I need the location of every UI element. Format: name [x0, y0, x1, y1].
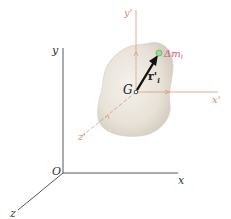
origin-label: O: [52, 165, 61, 178]
fixed-y-label: y: [51, 44, 59, 57]
fixed-x-label: x: [178, 174, 185, 187]
center-of-mass-point: [134, 90, 138, 94]
rigid-body-shape: [98, 43, 173, 137]
body-z-label: z': [77, 131, 86, 142]
rigid-body-diagram: O y x z y' x' z' G r'i Δmi: [0, 0, 231, 219]
body-y-label: y': [123, 7, 132, 18]
body-x-label: x': [212, 94, 220, 105]
center-of-mass-label: G: [123, 83, 133, 97]
fixed-z-axis: [18, 173, 63, 210]
mass-element-dot: [156, 50, 162, 56]
fixed-z-label: z: [9, 207, 16, 219]
